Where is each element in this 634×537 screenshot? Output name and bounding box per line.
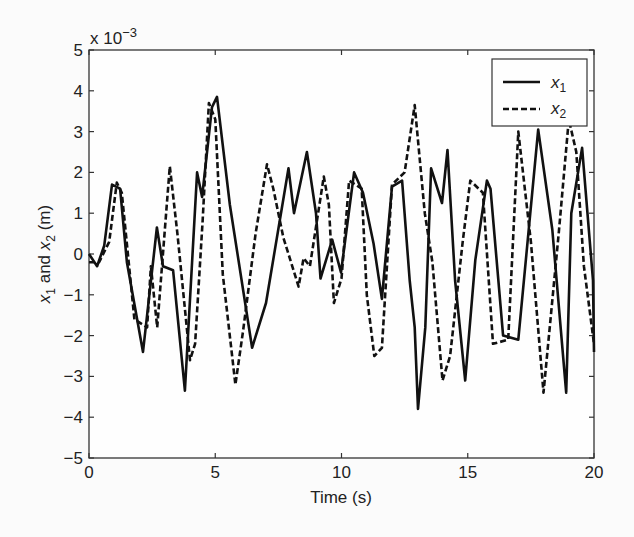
y-tick-label: −4 <box>64 408 83 427</box>
x-tick-label: 15 <box>458 463 477 482</box>
x-tick-label: 20 <box>585 463 604 482</box>
y-tick-label: 2 <box>74 163 83 182</box>
y-tick-label: −2 <box>64 327 83 346</box>
x-axis-title: Time (s) <box>310 488 372 507</box>
y-tick-label: 0 <box>74 245 83 264</box>
x-tick-label: 10 <box>332 463 351 482</box>
y-title-x2: x <box>35 241 54 251</box>
y-title-unit: (m) <box>35 205 54 235</box>
y-tick-label: −5 <box>64 449 83 468</box>
y-tick-label: 4 <box>74 82 83 101</box>
chart: 05101520 −5−4−3−2−1012345 x 10−3 Time (s… <box>0 0 634 537</box>
y-multiplier-exponent: −3 <box>122 25 137 40</box>
y-tick-label: −3 <box>64 367 83 386</box>
x-tick-label: 5 <box>211 463 220 482</box>
y-multiplier-base: x 10 <box>90 29 122 48</box>
y-tick-label: 3 <box>74 123 83 142</box>
y-title-and: and <box>35 250 54 288</box>
x-tick-label: 0 <box>84 463 93 482</box>
y-title-x1: x <box>35 294 54 304</box>
y-tick-label: 5 <box>74 41 83 60</box>
y-tick-label: −1 <box>64 286 83 305</box>
y-tick-label: 1 <box>74 204 83 223</box>
legend-box <box>492 59 587 126</box>
legend: x1 x2 <box>492 59 587 126</box>
